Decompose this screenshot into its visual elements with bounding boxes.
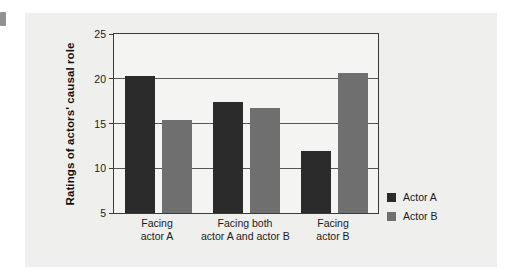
y-tick-label: 10 (94, 162, 106, 174)
y-tick-mark (109, 213, 114, 214)
legend-label-actor-b: Actor B (403, 210, 437, 222)
y-tick-label: 20 (94, 73, 106, 85)
figure-card: Ratings of actors' causal role 510152025… (25, 13, 497, 267)
y-tick-label: 15 (94, 118, 106, 130)
y-tick-mark (109, 123, 114, 124)
y-tick-label: 5 (100, 207, 106, 219)
scan-edge-artifact (0, 12, 6, 26)
x-category-label-line: actor A (113, 230, 201, 243)
y-axis-title-text: Ratings of actors' causal role (64, 42, 76, 205)
x-category-label: Facingactor B (289, 217, 377, 242)
legend-label-actor-a: Actor A (403, 191, 437, 203)
y-tick-mark (109, 34, 114, 35)
chart-legend: Actor A Actor B (387, 191, 437, 229)
bar (162, 120, 192, 213)
bar (213, 102, 243, 213)
bar (250, 108, 280, 213)
legend-swatch-actor-b (387, 212, 396, 221)
x-axis-labels: Facingactor AFacing bothactor A and acto… (113, 217, 379, 251)
y-tick-mark (109, 78, 114, 79)
legend-swatch-actor-a (387, 193, 396, 202)
y-axis-title: Ratings of actors' causal role (61, 33, 79, 214)
bar (338, 73, 368, 214)
x-category-label-line: Facing both (201, 217, 289, 230)
x-category-label-line: Facing (113, 217, 201, 230)
x-category-label: Facingactor A (113, 217, 201, 242)
legend-item: Actor A (387, 191, 437, 203)
plot-area: 510152025 (113, 33, 379, 214)
y-tick-mark (109, 168, 114, 169)
legend-item: Actor B (387, 210, 437, 222)
y-tick-label: 25 (94, 28, 106, 40)
bar (125, 76, 155, 213)
x-category-label-line: Facing (289, 217, 377, 230)
bar (301, 151, 331, 213)
x-category-label: Facing bothactor A and actor B (201, 217, 289, 242)
x-category-label-line: actor A and actor B (201, 230, 289, 243)
x-category-label-line: actor B (289, 230, 377, 243)
